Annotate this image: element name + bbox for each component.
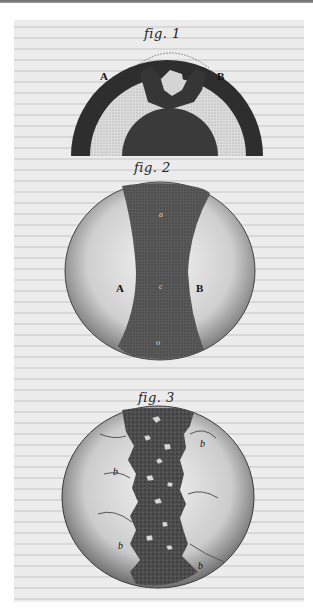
fig2-label-a-small: a	[159, 210, 163, 219]
fig2-label-a: A	[116, 282, 124, 294]
fig2-label-o-small: o	[156, 338, 160, 347]
fig2-sphere	[64, 180, 256, 362]
fig1-hemisphere	[64, 40, 276, 158]
fig3-label-b-left-lower: b	[118, 540, 123, 551]
fig2-label-c-small: c	[159, 282, 163, 291]
fig3-label-b-right-upper: b	[200, 438, 205, 449]
fig2-label-b: B	[196, 282, 203, 294]
fig3-caption: fig. 3	[138, 390, 175, 405]
fig3-sphere	[60, 404, 256, 590]
fig1-label-a: A	[100, 70, 108, 82]
fig1-caption: fig. 1	[144, 26, 181, 41]
fig3-label-b-left-upper: b	[113, 466, 118, 477]
fig3-label-b-right-lower: b	[198, 560, 203, 571]
scan-top-border	[0, 0, 313, 3]
fig1-label-b: B	[217, 70, 224, 82]
engraving-plate: fig. 1 A B fig. 2	[14, 20, 304, 602]
fig2-caption: fig. 2	[134, 160, 171, 175]
